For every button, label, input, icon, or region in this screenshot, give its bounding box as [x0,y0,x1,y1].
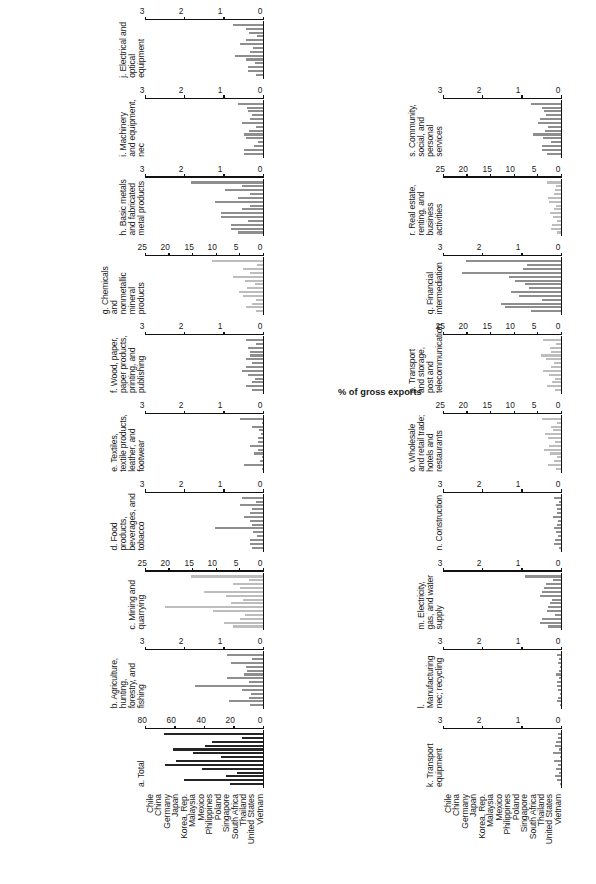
axis-tick-label: 10 [208,243,217,251]
axis-tick-label: 20 [161,243,170,251]
bar [242,737,264,739]
value-axis: 0123 [146,477,264,493]
axis-tick [443,489,444,493]
axis-tick [184,17,185,21]
plot-area [444,415,562,473]
axis-tick [521,253,522,257]
axis-tick [561,726,562,730]
value-axis: 0510152025 [146,240,264,256]
axis-baseline [263,651,264,709]
panel-title: b. Agriculture, hunting, forestry, and f… [110,650,146,708]
axis-tick-label: 25 [137,243,146,251]
axis-tick-label: 0 [257,401,262,409]
axis-tick [466,174,467,178]
axis-tick-label: 3 [437,243,442,251]
axis-line [146,255,264,256]
bar [240,587,264,589]
axis-line [444,334,562,335]
axis-tick-label: 0 [555,85,560,93]
panel-band-bottom: ChileChinaGermanyJapanKorea, Rep.Malaysi… [298,0,596,884]
panel-title: e. Textiles, textile products, leather, … [110,414,146,472]
axis-tick [443,411,444,415]
bar [543,339,562,341]
bar [525,575,562,577]
axis-tick [184,411,185,415]
plot-area [444,336,562,394]
bar [239,291,264,293]
axis-tick-label: 5 [532,401,537,409]
axis-tick [482,253,483,257]
bar [543,370,562,372]
bar [231,662,264,664]
bar [238,231,264,233]
bar [243,295,264,297]
bar [227,654,264,656]
value-axis: 0510152025 [444,319,562,335]
bar [173,748,264,750]
axis-tick [490,174,491,178]
chart-panel-c: c. Mining and quarrying0510152025 [0,552,298,631]
axis-tick-label: 1 [516,243,521,251]
axis-tick [561,332,562,336]
bar [244,133,264,135]
axis-tick [561,647,562,651]
axis-tick-label: 3 [139,164,144,172]
panel-title: k. Transport equipment [426,729,444,787]
axis-tick [521,726,522,730]
bar [242,185,264,187]
axis-tick [239,568,240,572]
axis-tick-label: 2 [477,85,482,93]
axis-tick-label: 20 [161,558,170,566]
axis-baseline [263,415,264,473]
bar [519,295,562,297]
axis-tick [145,253,146,257]
bar [246,339,264,341]
bar [247,107,264,109]
axis-tick [145,174,146,178]
bar [242,689,264,691]
chart-panel-f: f. Wood, paper, paper products, printing… [0,315,298,394]
axis-tick [482,726,483,730]
chart-panel-m: m. Electricity, gas, and water supply012… [298,552,596,631]
axis-tick-label: 25 [435,322,444,330]
axis-tick [145,17,146,21]
axis-line [146,492,264,493]
value-axis: 0123 [444,240,562,256]
axis-tick [145,489,146,493]
bar [246,666,264,668]
bar [242,122,264,124]
bar [246,39,264,41]
axis-line [146,570,264,571]
value-axis: 0123 [444,634,562,650]
bar-group [444,415,562,473]
axis-baseline [561,179,562,237]
value-axis: 020406080 [146,713,264,729]
axis-baseline [263,573,264,631]
bar-group [444,179,562,237]
value-axis: 0510152025 [444,162,562,178]
plot-area [146,730,264,788]
panel-spacer [298,0,596,79]
axis-baseline [561,100,562,158]
axis-line [444,649,562,650]
axis-tick-label: 3 [139,322,144,330]
bar [531,310,562,312]
bar [244,153,264,155]
bar [204,591,264,593]
bar [246,306,264,308]
axis-tick [145,332,146,336]
bar [244,516,264,518]
axis-tick-label: 0 [257,637,262,645]
axis-tick-label: 3 [139,7,144,15]
axis-tick-label: 15 [482,401,491,409]
axis-tick-label: 2 [477,558,482,566]
bar [244,149,264,151]
bar-group [444,573,562,631]
axis-tick-label: 2 [179,85,184,93]
bar [540,595,562,597]
axis-line [146,728,264,729]
bar [240,43,264,45]
bar [215,201,264,203]
axis-tick-label: 2 [179,479,184,487]
chart-panel-h: h. Basic metals and fabricated metal pro… [0,158,298,237]
